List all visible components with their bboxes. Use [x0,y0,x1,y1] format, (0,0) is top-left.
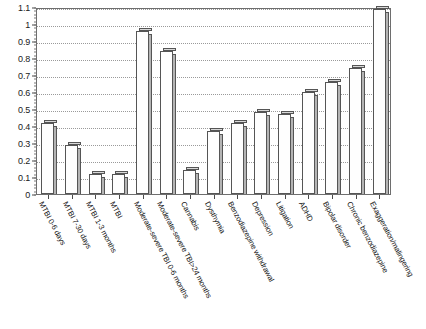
bar-face [325,82,338,194]
bar-top [186,167,199,170]
bar [65,145,78,194]
bar-top [44,120,57,123]
bar-side [386,12,389,194]
bar-top [305,89,318,92]
bar-side [102,177,105,194]
bar-face [89,174,102,194]
bar-top [257,109,270,112]
x-tick-mark [48,195,49,199]
plot-area [36,8,391,195]
bar-top [376,6,389,9]
x-tick-label: MTBI [108,200,124,220]
x-tick-mark [214,195,215,199]
bar-side [78,148,81,194]
x-tick-mark [143,195,144,199]
bar-side [244,126,247,194]
bar-side [338,85,341,194]
x-tick-mark [308,195,309,199]
y-tick-label: 1 [25,20,30,30]
bar-side [267,115,270,194]
bars-layer [37,9,390,194]
x-tick-mark [332,195,333,199]
y-tick-label: 0.8 [18,54,30,64]
x-tick-label: ADHD [297,200,315,223]
y-tick-label: 0.5 [18,105,30,115]
bar [112,174,125,194]
bar [349,68,362,194]
bar-top [234,120,247,123]
x-tick-mark [72,195,73,199]
bar-face [183,170,196,194]
x-axis-labels: MTBI 0-6 daysMTBI 7-30 daysMTBI 1-3 mont… [36,200,426,329]
x-tick-mark [166,195,167,199]
bar [41,123,54,194]
y-tick-label: 0.4 [18,122,30,132]
bar-side [196,173,199,194]
x-tick-label: Dysthymia [203,200,227,235]
x-tick-label: Litigation [274,200,296,230]
x-tick-mark [237,195,238,199]
x-tick-label: Depression [250,200,276,237]
bar [325,82,338,194]
bar-side [125,177,128,194]
bar [136,31,149,194]
bar-face [349,68,362,194]
bar-top [328,79,341,82]
bar-top [281,111,294,114]
bar-side [362,71,365,194]
bar [183,170,196,194]
bar-face [136,31,149,194]
y-tick-label: 0.7 [18,71,30,81]
x-tick-mark [95,195,96,199]
x-tick-label: Benzodiazepine withdrawal [226,200,276,283]
y-tick-label: 0 [25,190,30,200]
y-tick-label: 1.1 [18,3,30,13]
bar-side [173,54,176,194]
y-tick-label: 0.6 [18,88,30,98]
bar-face [278,114,291,194]
bar [254,112,267,194]
y-tick-label: 0.3 [18,139,30,149]
bar-side [54,126,57,194]
bar [278,114,291,194]
bar-side [291,117,294,194]
x-tick-mark [285,195,286,199]
bar-top [352,65,365,68]
bar-top [210,128,223,131]
bar-face [231,123,244,194]
bar-face [160,51,173,194]
bar [373,9,386,194]
bar-face [112,174,125,194]
y-tick-label: 0.9 [18,37,30,47]
bar-face [373,9,386,194]
bar [89,174,102,194]
bar [160,51,173,194]
bar [207,131,220,194]
bar-side [315,95,318,194]
x-tick-mark [379,195,380,199]
y-tick-label: 0.2 [18,156,30,166]
y-tick-label: 0.1 [18,173,30,183]
bar-top [115,171,128,174]
x-tick-mark [119,195,120,199]
bar-top [163,48,176,51]
x-tick-label: Chronic benzodiazepine [345,200,390,274]
bar-top [92,171,105,174]
x-tick-mark [356,195,357,199]
bar-face [302,92,315,194]
bar-face [254,112,267,194]
x-tick-label: Cannabis [179,200,202,232]
x-tick-mark [190,195,191,199]
x-tick-mark [261,195,262,199]
bar-face [41,123,54,194]
bar-top [139,28,152,31]
bar [231,123,244,194]
y-axis: 00.10.20.30.40.50.60.70.80.911.1 [0,8,36,195]
bar-face [207,131,220,194]
bar-side [149,34,152,194]
bar-top [68,142,81,145]
bar-chart: 00.10.20.30.40.50.60.70.80.911.1 MTBI 0-… [0,0,426,329]
bar-side [220,134,223,194]
bar [302,92,315,194]
bar-face [65,145,78,194]
